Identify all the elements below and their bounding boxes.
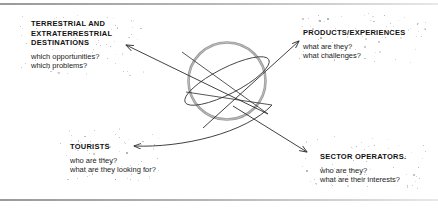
speckle-dot bbox=[388, 139, 389, 140]
speckle-dot bbox=[305, 158, 306, 159]
speckle-dot bbox=[310, 145, 311, 146]
speckle-dot bbox=[317, 139, 318, 140]
node-destinations-title: TERRESTRIAL AND EXTRATERRESTRIAL DESTINA… bbox=[31, 19, 112, 48]
node-tourists-question-1: who are they? bbox=[70, 156, 156, 166]
speckle-dot bbox=[404, 17, 405, 18]
node-tourists[interactable]: TOURISTS who are they? what are they loo… bbox=[70, 142, 156, 175]
speckle-dot bbox=[351, 147, 352, 148]
speckle-dot bbox=[296, 45, 298, 47]
speckle-dot bbox=[306, 141, 308, 143]
speckle-dot bbox=[341, 16, 342, 17]
speckle-dot bbox=[347, 185, 349, 187]
speckle-dot bbox=[113, 131, 114, 132]
speckle-dot bbox=[423, 145, 424, 146]
speckle-dot bbox=[424, 28, 426, 30]
speckle-dot bbox=[416, 36, 417, 37]
speckle-dot bbox=[411, 152, 412, 153]
speckle-dot bbox=[398, 145, 399, 146]
speckle-dot bbox=[119, 128, 121, 130]
speckle-dot bbox=[418, 167, 419, 168]
speckle-dot bbox=[157, 158, 158, 159]
speckle-dot bbox=[306, 170, 308, 172]
speckle-dot bbox=[26, 43, 27, 44]
node-operators-title: SECTOR OPERATORS. bbox=[320, 152, 406, 162]
speckle-dot bbox=[122, 53, 124, 55]
speckle-dot bbox=[50, 71, 52, 73]
speckle-dot bbox=[332, 185, 333, 186]
speckle-dot bbox=[131, 21, 132, 22]
speckle-dot bbox=[417, 188, 418, 189]
speckle-dot bbox=[84, 136, 86, 138]
node-tourists-title: TOURISTS bbox=[70, 142, 156, 152]
node-products-title: PRODUCTS/EXPERIENCES bbox=[303, 28, 406, 38]
speckle-dot bbox=[416, 176, 417, 177]
speckle-dot bbox=[425, 151, 426, 152]
speckle-dot bbox=[301, 54, 302, 55]
node-tourists-question-2: what are they looking for? bbox=[70, 165, 156, 175]
speckle-dot bbox=[373, 21, 375, 23]
speckle-dot bbox=[115, 179, 116, 180]
speckle-dot bbox=[310, 26, 311, 27]
speckle-dot bbox=[367, 186, 368, 187]
speckle-dot bbox=[393, 26, 394, 27]
node-products-question-2: what challenges? bbox=[303, 51, 406, 61]
speckle-dot bbox=[425, 22, 426, 23]
speckle-dot bbox=[58, 72, 60, 74]
node-destinations-question-1: which opportunities? bbox=[31, 52, 112, 62]
node-operators[interactable]: SECTOR OPERATORS. who are they? what are… bbox=[320, 152, 406, 185]
speckle-dot bbox=[352, 148, 353, 149]
speckle-dot bbox=[374, 145, 375, 146]
speckle-dot bbox=[115, 25, 116, 26]
speckle-dot bbox=[22, 28, 23, 29]
node-operators-questions: who are they? what are their interests? bbox=[320, 166, 406, 185]
speckle-dot bbox=[87, 176, 88, 177]
node-destinations-question-2: which problems? bbox=[31, 61, 112, 71]
speckle-dot bbox=[410, 62, 411, 63]
node-tourists-questions: who are they? what are they looking for? bbox=[70, 156, 156, 175]
speckle-dot bbox=[130, 179, 131, 180]
node-operators-question-1: who are they? bbox=[320, 166, 406, 176]
speckle-dot bbox=[143, 71, 145, 73]
node-products[interactable]: PRODUCTS/EXPERIENCES what are they? what… bbox=[303, 28, 406, 61]
node-operators-question-2: what are their interests? bbox=[320, 175, 406, 185]
speckle-dot bbox=[56, 17, 57, 18]
speckle-dot bbox=[77, 15, 78, 16]
speckle-dot bbox=[319, 20, 321, 22]
speckle-dot bbox=[421, 36, 422, 37]
arrow-to-operators bbox=[233, 106, 307, 152]
speckle-dot bbox=[327, 18, 329, 20]
speckle-dot bbox=[115, 54, 116, 55]
node-products-question-1: what are they? bbox=[303, 42, 406, 52]
speckle-dot bbox=[413, 174, 415, 176]
speckle-dot bbox=[127, 71, 128, 72]
speckle-dot bbox=[302, 18, 304, 20]
speckle-dot bbox=[310, 181, 311, 182]
node-products-questions: what are they? what challenges? bbox=[303, 42, 406, 61]
node-destinations[interactable]: TERRESTRIAL AND EXTRATERRESTRIAL DESTINA… bbox=[31, 19, 112, 71]
node-destinations-questions: which opportunities? which problems? bbox=[31, 52, 112, 71]
speckle-dot bbox=[149, 176, 150, 177]
speckle-dot bbox=[117, 27, 119, 29]
speckle-dot bbox=[316, 184, 317, 185]
speckle-dot bbox=[89, 175, 90, 176]
diagram-canvas: TERRESTRIAL AND EXTRATERRESTRIAL DESTINA… bbox=[0, 0, 438, 208]
speckle-dot bbox=[141, 28, 142, 29]
speckle-dot bbox=[361, 142, 362, 143]
